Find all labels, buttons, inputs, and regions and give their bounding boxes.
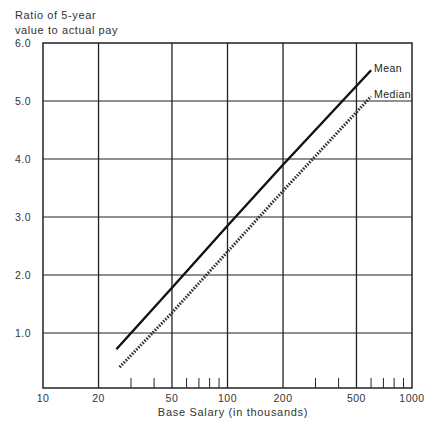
series-label-mean: Mean [374, 62, 402, 74]
x-tick-label: 100 [218, 392, 237, 404]
y-tick-labels: 1.02.03.04.05.06.0 [15, 37, 31, 339]
x-tick-label: 20 [92, 392, 105, 404]
y-tick-label: 4.0 [15, 153, 31, 165]
x-tick-label: 10 [37, 392, 50, 404]
series-label-median: Median [374, 88, 411, 100]
y-tick-label: 3.0 [15, 211, 31, 223]
series-line-median [120, 96, 372, 367]
x-tick-label: 200 [274, 392, 293, 404]
x-tick-labels: 1020501002005001000 [37, 392, 425, 404]
chart-plot: 1020501002005001000 1.02.03.04.05.06.0 M… [0, 0, 436, 430]
y-tick-label: 1.0 [15, 327, 31, 339]
x-tick-label: 1000 [399, 392, 424, 404]
x-axis-title: Base Salary (in thousands) [0, 406, 436, 418]
series-line-mean [116, 70, 371, 349]
grid-lines [43, 43, 412, 388]
series-lines [116, 70, 371, 367]
y-tick-label: 6.0 [15, 37, 31, 49]
x-tick-label: 500 [347, 392, 366, 404]
y-tick-label: 5.0 [15, 95, 31, 107]
x-tick-label: 50 [166, 392, 179, 404]
y-tick-label: 2.0 [15, 269, 31, 281]
